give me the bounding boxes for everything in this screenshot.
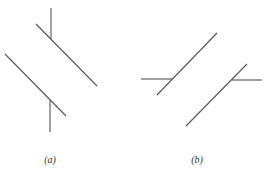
diagram-canvas [0,0,267,172]
panel-b-lower-diagonal [186,64,247,126]
panel-a-caption: (a) [44,154,56,165]
panel-b-upper-diagonal [157,33,217,95]
panel-b-caption: (b) [191,154,203,165]
panel-b [141,33,262,126]
panel-a [5,8,97,132]
panel-a-lower-diagonal [5,54,66,116]
panel-a-upper-diagonal [36,24,97,86]
